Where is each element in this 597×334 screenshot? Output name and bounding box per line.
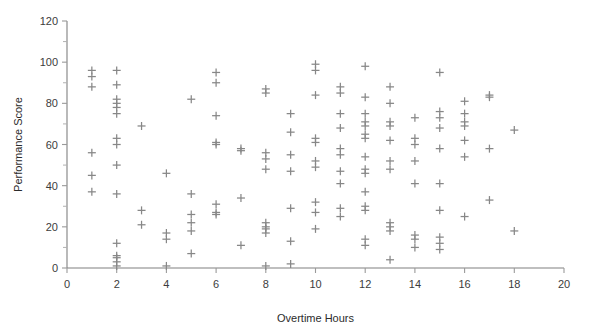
data-point-marker bbox=[361, 62, 369, 70]
data-point-marker bbox=[386, 157, 394, 165]
data-point-marker bbox=[386, 136, 394, 144]
data-point-marker bbox=[262, 155, 270, 163]
data-point-marker bbox=[212, 112, 220, 120]
data-point-marker bbox=[510, 227, 518, 235]
data-point-marker bbox=[187, 219, 195, 227]
data-point-marker bbox=[113, 262, 121, 270]
y-tick-label: 60 bbox=[46, 139, 58, 151]
data-point-marker bbox=[386, 256, 394, 264]
data-point-marker bbox=[461, 122, 469, 130]
y-axis: 020406080100120 bbox=[40, 15, 67, 274]
data-point-marker bbox=[287, 260, 295, 268]
data-point-marker bbox=[212, 79, 220, 87]
data-point-marker bbox=[212, 141, 220, 149]
data-point-marker bbox=[113, 66, 121, 74]
data-point-marker bbox=[287, 110, 295, 118]
data-point-marker bbox=[436, 145, 444, 153]
data-point-marker bbox=[386, 165, 394, 173]
y-tick-label: 80 bbox=[46, 97, 58, 109]
x-tick-label: 8 bbox=[263, 278, 269, 290]
data-point-marker bbox=[411, 114, 419, 122]
x-tick-label: 2 bbox=[114, 278, 120, 290]
data-point-marker bbox=[287, 151, 295, 159]
data-point-marker bbox=[287, 237, 295, 245]
x-tick-label: 16 bbox=[458, 278, 470, 290]
scatter-chart: 020406080100120 02468101214161820 Overti… bbox=[0, 0, 597, 334]
data-point-marker bbox=[187, 250, 195, 258]
data-point-marker bbox=[162, 235, 170, 243]
x-tick-label: 10 bbox=[309, 278, 321, 290]
data-point-marker bbox=[187, 190, 195, 198]
data-point-marker bbox=[461, 97, 469, 105]
data-point-marker bbox=[162, 262, 170, 270]
data-point-marker bbox=[436, 245, 444, 253]
y-axis-title: Performance Score bbox=[12, 97, 24, 192]
data-point-marker bbox=[237, 147, 245, 155]
y-tick-label: 20 bbox=[46, 221, 58, 233]
data-point-marker bbox=[386, 83, 394, 91]
data-point-marker bbox=[436, 124, 444, 132]
data-point-marker bbox=[386, 99, 394, 107]
data-point-marker bbox=[510, 126, 518, 134]
data-point-marker bbox=[411, 235, 419, 243]
data-point-marker bbox=[312, 163, 320, 171]
data-point-marker bbox=[138, 221, 146, 229]
data-point-marker bbox=[312, 225, 320, 233]
x-tick-label: 6 bbox=[213, 278, 219, 290]
data-point-marker bbox=[262, 165, 270, 173]
data-point-marker bbox=[88, 83, 96, 91]
data-point-marker bbox=[312, 208, 320, 216]
data-point-marker bbox=[237, 241, 245, 249]
x-tick-label: 12 bbox=[359, 278, 371, 290]
data-point-marker bbox=[336, 204, 344, 212]
data-point-marker bbox=[187, 210, 195, 218]
data-point-marker bbox=[411, 157, 419, 165]
data-point-marker bbox=[361, 241, 369, 249]
data-point-marker bbox=[336, 213, 344, 221]
data-point-marker bbox=[212, 210, 220, 218]
data-point-marker bbox=[287, 204, 295, 212]
data-point-marker bbox=[436, 68, 444, 76]
data-point-marker bbox=[262, 229, 270, 237]
data-point-marker bbox=[436, 114, 444, 122]
x-tick-label: 14 bbox=[409, 278, 421, 290]
data-point-marker bbox=[237, 194, 245, 202]
x-tick-label: 0 bbox=[64, 278, 70, 290]
data-point-marker bbox=[113, 110, 121, 118]
data-point-marker bbox=[88, 171, 96, 179]
data-point-marker bbox=[262, 262, 270, 270]
data-point-marker bbox=[312, 198, 320, 206]
data-point-marker bbox=[187, 95, 195, 103]
data-point-marker bbox=[361, 122, 369, 130]
data-point-marker bbox=[386, 227, 394, 235]
data-point-marker bbox=[312, 66, 320, 74]
data-point-marker bbox=[461, 153, 469, 161]
data-point-marker bbox=[485, 145, 493, 153]
data-point-marker bbox=[113, 81, 121, 89]
data-point-marker bbox=[88, 73, 96, 81]
data-point-marker bbox=[485, 196, 493, 204]
data-point-marker bbox=[287, 167, 295, 175]
x-tick-label: 18 bbox=[508, 278, 520, 290]
data-point-marker bbox=[113, 161, 121, 169]
data-point-marker bbox=[336, 89, 344, 97]
data-point-marker bbox=[336, 124, 344, 132]
data-point-marker bbox=[361, 169, 369, 177]
data-point-marker bbox=[461, 110, 469, 118]
data-point-marker bbox=[436, 180, 444, 188]
data-point-marker bbox=[361, 110, 369, 118]
data-point-marker bbox=[162, 169, 170, 177]
data-point-marker bbox=[336, 151, 344, 159]
data-point-marker bbox=[312, 91, 320, 99]
data-point-marker bbox=[436, 206, 444, 214]
data-point-marker bbox=[212, 200, 220, 208]
y-tick-label: 120 bbox=[40, 15, 58, 27]
chart-canvas: 020406080100120 02468101214161820 Overti… bbox=[0, 0, 597, 334]
data-point-marker bbox=[312, 138, 320, 146]
y-tick-label: 0 bbox=[52, 262, 58, 274]
data-point-marker bbox=[287, 128, 295, 136]
data-point-marker bbox=[88, 149, 96, 157]
x-tick-label: 20 bbox=[558, 278, 570, 290]
x-tick-label: 4 bbox=[163, 278, 169, 290]
data-points bbox=[88, 60, 518, 270]
